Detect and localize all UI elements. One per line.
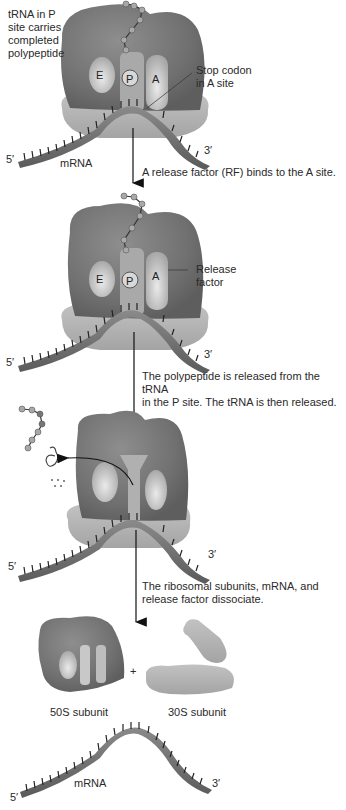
release-factor-label: Release factor xyxy=(196,263,236,289)
e-site-label: E xyxy=(96,69,103,81)
three-prime-label: 3′ xyxy=(208,548,216,560)
plus-sign: + xyxy=(130,665,136,677)
release-factor-in-a-site xyxy=(145,470,167,510)
e-site-label: E xyxy=(96,273,103,285)
stop-codon-label: Stop codon in A site xyxy=(196,64,252,90)
step3-caption: The ribosomal subunits, mRNA, and releas… xyxy=(142,580,319,606)
five-prime-label: 5′ xyxy=(8,560,16,572)
three-prime-label: 3′ xyxy=(204,348,212,360)
five-prime-label: 5′ xyxy=(6,356,14,368)
50s-subunit-label: 50S subunit xyxy=(50,706,108,718)
small-subunit-30s-head xyxy=(183,619,226,663)
five-prime-label: 5′ xyxy=(6,153,14,165)
trna-p-site-note: tRNA in P site carries completed polypep… xyxy=(8,8,78,60)
three-prime-label: 3′ xyxy=(204,144,212,156)
three-prime-label: 3′ xyxy=(212,777,220,789)
step2-caption: The polypeptide is released from the tRN… xyxy=(142,370,346,409)
p-site-label: P xyxy=(126,73,133,85)
30s-subunit-label: 30S subunit xyxy=(168,706,226,718)
free-mrna-strand xyxy=(20,728,212,798)
mrna-label: mRNA xyxy=(74,777,106,789)
step1-caption: A release factor (RF) binds to the A sit… xyxy=(142,166,336,179)
a-site-label: A xyxy=(152,270,159,282)
released-trna-icon xyxy=(46,447,65,487)
a-site-label: A xyxy=(152,73,159,85)
mrna-label: mRNA xyxy=(60,157,92,169)
five-prime-label: 5′ xyxy=(10,791,18,803)
small-subunit-30s-body xyxy=(146,664,234,694)
released-amino-acids xyxy=(19,406,45,451)
e-site-pocket xyxy=(92,462,118,502)
p-site-label: P xyxy=(126,275,133,287)
